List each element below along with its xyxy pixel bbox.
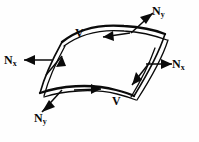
label-ny-bottom-subscript: y xyxy=(43,117,47,126)
shell-left-edge-outer xyxy=(40,42,62,93)
shear-arrow-v-top xyxy=(103,31,130,41)
label-ny-bottom-symbol: N xyxy=(34,111,43,125)
label-nx-right-subscript: x xyxy=(181,63,185,72)
label-ny-top-subscript: y xyxy=(161,10,165,19)
label-nx-left: Nx xyxy=(4,54,17,66)
label-v-bottom: V xyxy=(112,95,121,107)
label-ny-top-symbol: N xyxy=(152,4,161,18)
label-v-top: V xyxy=(75,27,84,39)
shear-arrow-v-left xyxy=(46,56,66,75)
shell-diagram-svg xyxy=(0,0,199,142)
label-ny-top: Ny xyxy=(152,5,165,17)
label-nx-right-symbol: N xyxy=(172,57,181,71)
shell-right-edge-outer xyxy=(134,34,165,96)
label-nx-right: Nx xyxy=(172,58,185,70)
label-nx-left-symbol: N xyxy=(4,53,13,67)
force-arrow-nx-left xyxy=(24,55,52,65)
label-ny-bottom: Ny xyxy=(34,112,47,124)
shell-force-diagram: Ny Nx Nx Ny V V xyxy=(0,0,199,142)
shell-right-edge-inner xyxy=(137,40,168,100)
label-nx-left-subscript: x xyxy=(13,59,17,68)
